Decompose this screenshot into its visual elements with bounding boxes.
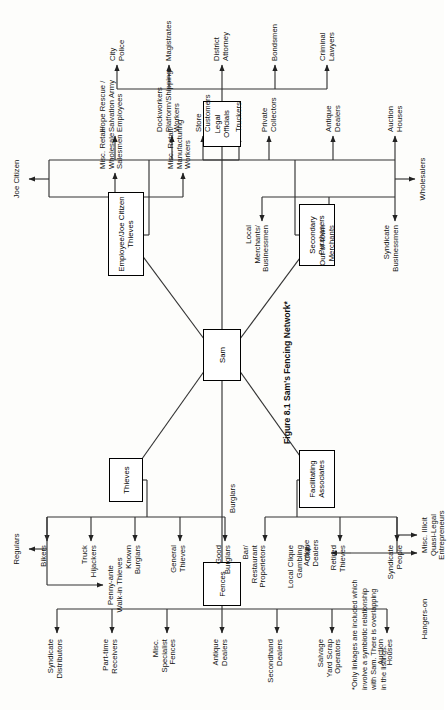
label-secondary-upper-0: Syndicate Businessmen xyxy=(383,225,400,301)
label-thieves-item-0: Good Burglars xyxy=(215,545,232,615)
label-secondary-group-wholesalers: Wholesalers xyxy=(419,139,428,219)
label-thieves-item-3: Truck Hijackers xyxy=(81,545,98,615)
label-thieves-item-2: Known Burglars xyxy=(125,545,142,615)
label-thieves-group-regulars: Regulars xyxy=(13,519,22,579)
label-legal-item-1: Bondsmen xyxy=(271,0,280,61)
node-sam[interactable]: Sam xyxy=(203,329,241,381)
label-secondary-lower-0: Auction Houses xyxy=(387,58,404,132)
label-fences-item-1: Salvage Yard Scrap Operators xyxy=(317,639,343,710)
figure-footnote: *Only linkages are included which involv… xyxy=(350,500,388,690)
label-employee-group-joe-citizen: Joe Citizen xyxy=(13,149,22,209)
label-thieves-item-1: General Thieves xyxy=(170,545,187,615)
label-facilitating-group-hangers-on: Hangers-on xyxy=(421,575,430,663)
label-secondary-lower-2: Private Collectors xyxy=(261,58,278,132)
figure-caption: Figure 8.1 Sam's Fencing Network* xyxy=(282,301,292,444)
label-secondary-upper-1: Out-of-town Merchants xyxy=(319,225,336,301)
label-secondary-lower-1: Antique Dealers xyxy=(325,58,342,132)
label-fences-item-3: Antique Dealers xyxy=(212,639,229,710)
label-facilitating-lower-1: Antique Dealers xyxy=(303,511,320,595)
label-facilitating-upper-0: Syndicate People xyxy=(387,545,404,617)
label-legal-item-4: City Police xyxy=(109,0,126,61)
label-secondary-lower-3: Store Customers xyxy=(195,58,212,132)
node-employee-joe-citizen-thieves[interactable]: Employee/Joe Citizen Thieves xyxy=(108,192,144,276)
label-secondary-upper-2: Local Merchants/ Businessmen xyxy=(245,225,271,301)
node-facilitating-associates[interactable]: Facilitating Associates xyxy=(299,450,335,508)
label-fences-item-5: Part-time Receivers xyxy=(102,639,119,710)
label-fences-item-2: Secondhand Dealers xyxy=(267,639,284,710)
label-facilitating-upper-1: Retired Thieves xyxy=(330,545,347,617)
label-fences-item-4: Misc. Specialist Fences xyxy=(152,639,178,710)
label-thieves-item-4: Bikers xyxy=(40,545,49,615)
label-employee-group-truckers: Truckers xyxy=(235,72,244,132)
label-fences-item-6: Syndicate Distributors xyxy=(47,639,64,710)
label-legal-item-3: Magistrates xyxy=(165,0,174,61)
label-facilitating-upper-3: Bar/ Restaurant Properietors xyxy=(242,545,268,617)
label-thieves-group-burglars: Burglars xyxy=(229,443,238,513)
node-thieves[interactable]: Thieves xyxy=(109,458,143,502)
label-legal-item-0: Criminal Lawyers xyxy=(319,0,336,61)
label-facilitating-lower-0: Misc. Illicit Quasi-Legal Entrepreneurs xyxy=(421,491,447,579)
label-legal-item-2: District Attorney xyxy=(213,0,230,61)
label-thieves-group-penny-ante: Penny-ante Walk-in Thieves xyxy=(107,539,124,631)
